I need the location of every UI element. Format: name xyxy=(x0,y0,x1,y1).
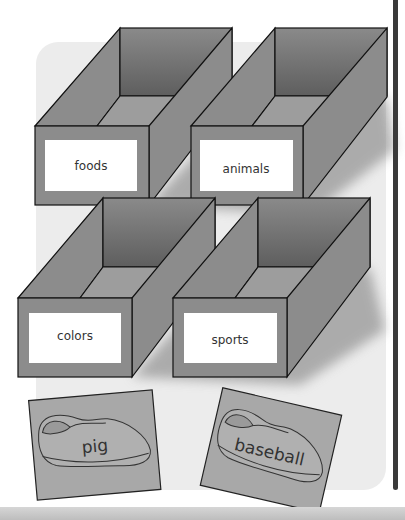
box-label: colors xyxy=(57,329,93,343)
word-card-pig[interactable]: pig xyxy=(29,390,161,500)
sorting-activity: foods animals colors sports xyxy=(0,0,405,520)
card-word: pig xyxy=(81,435,109,457)
box-label: animals xyxy=(223,162,270,176)
vertical-divider xyxy=(393,0,398,490)
box-label: foods xyxy=(75,159,108,173)
box-label: sports xyxy=(211,333,248,347)
bottom-bar xyxy=(0,507,405,520)
